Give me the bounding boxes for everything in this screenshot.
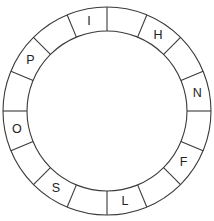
wheel-cell[interactable]: O <box>12 122 22 136</box>
segment-divider <box>138 15 147 37</box>
cell-letter: L <box>121 194 128 208</box>
cell-letter: S <box>52 181 60 195</box>
segment-divider <box>11 71 33 80</box>
wheel-cell[interactable]: P <box>26 53 34 67</box>
wheel-cell[interactable]: F <box>180 155 188 169</box>
segment-divider <box>164 37 181 54</box>
segment-divider <box>33 37 50 54</box>
segment-divider <box>67 15 76 37</box>
letter-wheel: HNFLSOPI <box>0 0 214 221</box>
segment-divider <box>138 185 147 207</box>
segment-divider <box>11 142 33 151</box>
cell-letter: H <box>154 28 163 42</box>
wheel-cell[interactable]: L <box>121 194 128 208</box>
segment-dividers <box>3 7 211 215</box>
segment-divider <box>67 185 76 207</box>
cell-letter: F <box>180 155 188 169</box>
segment-divider <box>181 71 203 80</box>
wheel-cell[interactable]: S <box>52 181 60 195</box>
cell-letter: I <box>87 14 90 28</box>
segment-divider <box>33 168 50 185</box>
wheel-cell[interactable]: H <box>154 28 163 42</box>
segment-divider <box>181 142 203 151</box>
inner-ring <box>27 31 187 191</box>
cell-letter: P <box>26 53 34 67</box>
wheel-cell[interactable]: I <box>87 14 90 28</box>
cell-letter: N <box>193 86 202 100</box>
segment-divider <box>164 168 181 185</box>
cell-letter: O <box>12 122 22 136</box>
wheel-cell[interactable]: N <box>193 86 202 100</box>
segment-cells: HNFLSOPI <box>12 14 202 208</box>
